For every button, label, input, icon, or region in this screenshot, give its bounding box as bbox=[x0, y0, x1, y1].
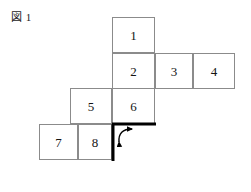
cell-number-label: 1 bbox=[130, 28, 137, 41]
cell-6: 6 bbox=[112, 88, 155, 124]
cell-7: 7 bbox=[39, 124, 78, 160]
cell-4: 4 bbox=[193, 53, 235, 89]
cell-number-label: 2 bbox=[130, 64, 137, 77]
cell-5: 5 bbox=[70, 88, 112, 124]
cell-number-label: 5 bbox=[88, 99, 95, 112]
cell-number-label: 3 bbox=[171, 64, 178, 77]
cell-number-label: 8 bbox=[92, 135, 99, 148]
figure-diagram: 図 1 12345678 bbox=[0, 0, 251, 192]
figure-caption: 図 1 bbox=[11, 11, 32, 24]
cell-3: 3 bbox=[155, 53, 193, 89]
cell-number-label: 6 bbox=[130, 99, 137, 112]
cell-1: 1 bbox=[112, 17, 155, 53]
cell-number-label: 4 bbox=[211, 64, 218, 77]
fold-arrow-icon bbox=[119, 129, 132, 142]
cell-2: 2 bbox=[112, 53, 155, 89]
cell-number-label: 7 bbox=[55, 135, 62, 148]
cell-8: 8 bbox=[78, 124, 112, 160]
